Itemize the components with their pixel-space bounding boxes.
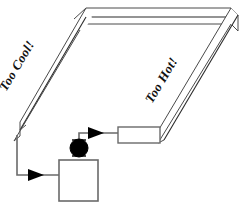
schematic-drawing: Too Cool! Too Hot! (0, 0, 244, 205)
pump-impeller (70, 139, 88, 157)
left-leg-mid-edge (20, 17, 86, 130)
return-pipe (17, 135, 59, 181)
top-duct (86, 8, 231, 24)
top-duct-top-face (86, 8, 231, 16)
diagram-canvas: Too Cool! Too Hot! (0, 0, 244, 205)
right-leg-mid-edge (164, 15, 238, 140)
label-too-cool: Too Cool! (0, 38, 37, 94)
tank (59, 160, 98, 201)
return-pipe-path (17, 135, 59, 175)
right-leg-front-edge (158, 24, 231, 143)
label-too-hot: Too Hot! (142, 54, 181, 105)
left-leg-duct (14, 8, 92, 141)
tank-body (59, 160, 98, 201)
flow-arrow-outlet (88, 127, 104, 139)
pump (70, 139, 88, 157)
flow-arrow-inlet (28, 169, 44, 181)
heat-exchanger-body (118, 127, 160, 143)
heat-exchanger (118, 127, 160, 143)
left-leg-back-edge (20, 8, 86, 122)
